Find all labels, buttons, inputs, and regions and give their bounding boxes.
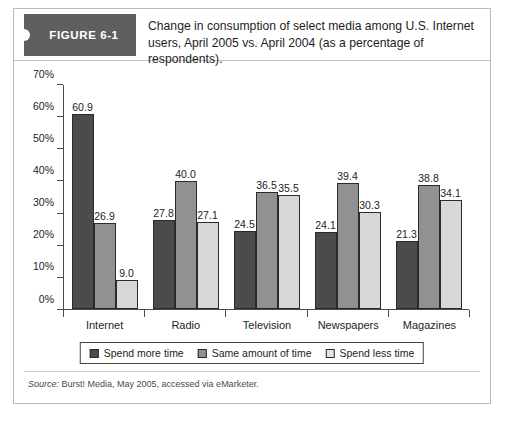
bar: 27.8	[153, 220, 175, 309]
bar-value-label: 60.9	[72, 101, 92, 113]
y-axis-tick-label: 10%	[33, 260, 54, 272]
x-axis-tick	[225, 310, 226, 317]
x-axis-tick	[307, 310, 308, 317]
y-axis-tick	[57, 277, 63, 278]
bar-value-label: 9.0	[119, 267, 134, 279]
bar-value-label: 27.1	[197, 209, 217, 221]
x-axis-ticks	[63, 310, 469, 317]
bar-group: 27.840.027.1	[145, 85, 226, 309]
bar: 40.0	[175, 181, 197, 309]
source-divider	[24, 371, 480, 372]
bar-value-label: 35.5	[278, 182, 298, 194]
y-axis-tick-label: 0%	[39, 293, 54, 305]
bar-group: 24.536.535.5	[226, 85, 307, 309]
figure-number-label: FIGURE 6-1	[49, 29, 118, 41]
y-axis-tick	[57, 116, 63, 117]
x-axis-category-label: Magazines	[389, 319, 470, 331]
bar-value-label: 26.9	[94, 210, 114, 222]
figure-number-badge: FIGURE 6-1	[24, 14, 136, 56]
x-axis-tick	[63, 310, 64, 317]
x-axis-labels: InternetRadioTelevisionNewspapersMagazin…	[64, 319, 470, 331]
bar: 39.4	[337, 183, 359, 309]
y-axis-tick	[57, 213, 63, 214]
figure-header: FIGURE 6-1 Change in consumption of sele…	[14, 9, 490, 61]
figure-card: FIGURE 6-1 Change in consumption of sele…	[13, 8, 491, 404]
bar-groups: 60.926.99.027.840.027.124.536.535.524.13…	[64, 85, 469, 309]
bar-value-label: 24.5	[234, 218, 254, 230]
y-axis-tick	[57, 84, 63, 85]
bar: 9.0	[116, 280, 138, 309]
bar-value-label: 39.4	[337, 170, 357, 182]
legend-swatch	[326, 349, 335, 358]
bar-group: 60.926.99.0	[64, 85, 145, 309]
bar: 35.5	[278, 195, 300, 309]
y-axis-tick-label: 20%	[33, 228, 54, 240]
x-axis-category-label: Newspapers	[308, 319, 389, 331]
x-axis-tick	[388, 310, 389, 317]
bar: 24.1	[315, 232, 337, 309]
bar-value-label: 21.3	[396, 228, 416, 240]
legend-item[interactable]: Same amount of time	[198, 347, 312, 359]
bar: 26.9	[94, 223, 116, 309]
bar: 38.8	[418, 185, 440, 309]
legend-swatch	[90, 349, 99, 358]
chart-panel: 0%10%20%30%40%50%60%70% 60.926.99.027.84…	[14, 61, 490, 403]
y-axis-tick-label: 70%	[33, 68, 54, 80]
badge-dot-icon	[18, 29, 30, 41]
bar: 36.5	[256, 192, 278, 309]
x-axis-tick	[144, 310, 145, 317]
bar-value-label: 36.5	[256, 179, 276, 191]
bar: 30.3	[359, 212, 381, 309]
y-axis-tick-label: 30%	[33, 196, 54, 208]
y-axis-tick-label: 60%	[33, 100, 54, 112]
plot-area: 0%10%20%30%40%50%60%70% 60.926.99.027.84…	[63, 85, 469, 310]
x-axis-category-label: Radio	[145, 319, 226, 331]
bar-value-label: 40.0	[175, 168, 195, 180]
bar: 21.3	[396, 241, 418, 309]
source-prefix: Source:	[28, 379, 59, 389]
source-note: Source: Burst! Media, May 2005, accessed…	[28, 379, 259, 389]
y-axis-tick-label: 40%	[33, 164, 54, 176]
bar-value-label: 34.1	[440, 187, 460, 199]
legend-item[interactable]: Spend more time	[90, 347, 184, 359]
legend-label: Same amount of time	[212, 347, 312, 359]
bar-value-label: 38.8	[418, 172, 438, 184]
bar: 27.1	[197, 222, 219, 309]
legend-label: Spend more time	[104, 347, 184, 359]
y-axis-tick	[57, 180, 63, 181]
y-axis-tick-label: 50%	[33, 132, 54, 144]
bar-value-label: 27.8	[153, 207, 173, 219]
bar: 24.5	[234, 231, 256, 309]
legend-item[interactable]: Spend less time	[326, 347, 415, 359]
bar-group: 24.139.430.3	[307, 85, 388, 309]
bar: 60.9	[72, 114, 94, 309]
bar: 34.1	[440, 200, 462, 309]
chart-legend: Spend more timeSame amount of timeSpend …	[80, 342, 424, 364]
legend-label: Spend less time	[340, 347, 415, 359]
legend-swatch	[198, 349, 207, 358]
x-axis-category-label: Internet	[64, 319, 145, 331]
y-axis-tick	[57, 245, 63, 246]
bar-value-label: 30.3	[359, 199, 379, 211]
x-axis-category-label: Television	[226, 319, 307, 331]
bar-group: 21.338.834.1	[388, 85, 469, 309]
source-text: Burst! Media, May 2005, accessed via eMa…	[62, 379, 259, 389]
x-axis-tick	[469, 310, 470, 317]
y-axis-tick	[57, 148, 63, 149]
bar-value-label: 24.1	[315, 219, 335, 231]
